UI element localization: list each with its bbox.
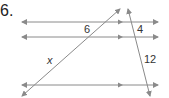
label-x: x	[46, 54, 53, 66]
label-6: 6	[84, 23, 90, 35]
label-12: 12	[144, 53, 156, 65]
parallel-lines-diagram: 6 x 4 12	[0, 0, 169, 98]
label-4: 4	[137, 23, 143, 35]
parallel-line-3	[22, 83, 158, 88]
